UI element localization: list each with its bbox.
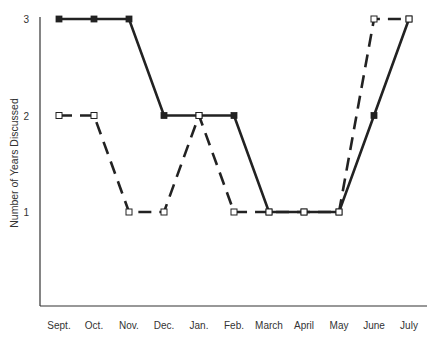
x-tick-label: Nov. — [119, 320, 139, 331]
x-tick-label: Sept. — [47, 320, 70, 331]
filled-square-marker — [371, 113, 377, 119]
line-chart: Number of Years Discussed 123 Sept.Oct.N… — [0, 0, 444, 348]
filled-square-marker — [56, 16, 62, 22]
x-tick-label: March — [255, 320, 283, 331]
axes — [40, 17, 427, 306]
x-tick-label: July — [400, 320, 418, 331]
filled-square-marker — [161, 113, 167, 119]
open-square-marker — [126, 209, 132, 215]
open-square-marker — [196, 113, 202, 119]
y-tick-label: 3 — [23, 14, 29, 25]
open-square-marker — [406, 16, 412, 22]
filled-square-marker — [91, 16, 97, 22]
open-square-marker — [371, 16, 377, 22]
open-square-marker — [56, 113, 62, 119]
open-square-marker — [301, 209, 307, 215]
x-tick-label: Oct. — [85, 320, 103, 331]
x-tick-label: Jan. — [190, 320, 209, 331]
open-square-marker — [231, 209, 237, 215]
open-square-marker — [266, 209, 272, 215]
y-tick-label: 2 — [23, 111, 29, 122]
series-solid — [56, 16, 412, 215]
x-tick-label: Dec. — [154, 320, 175, 331]
series-lines — [56, 16, 412, 215]
open-square-marker — [161, 209, 167, 215]
open-square-marker — [336, 209, 342, 215]
y-tick-labels: 123 — [23, 14, 29, 218]
y-axis-title: Number of Years Discussed — [8, 98, 20, 228]
y-tick-label: 1 — [23, 207, 29, 218]
x-tick-label: May — [330, 320, 349, 331]
x-tick-labels: Sept.Oct.Nov.Dec.Jan.Feb.MarchAprilMayJu… — [47, 320, 418, 331]
open-square-marker — [91, 113, 97, 119]
filled-square-marker — [126, 16, 132, 22]
x-tick-label: Feb. — [224, 320, 244, 331]
x-tick-label: June — [363, 320, 385, 331]
filled-square-marker — [231, 113, 237, 119]
x-tick-label: April — [294, 320, 314, 331]
